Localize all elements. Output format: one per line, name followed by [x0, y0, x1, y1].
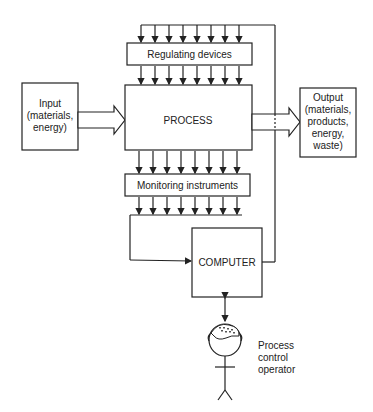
process-input-arrows	[141, 66, 239, 84]
operator-label: Process control operator	[258, 340, 296, 375]
monitoring-input-arrows	[139, 151, 237, 173]
monitoring-instruments-label: Monitoring instruments	[137, 180, 238, 191]
monitoring-instruments-box: Monitoring instruments	[125, 174, 250, 196]
output-flow-arrow	[252, 108, 300, 136]
computer-box: COMPUTER	[192, 228, 262, 297]
input-flow-arrow	[78, 106, 125, 134]
input-box: Input (materials, energy)	[22, 83, 78, 150]
operator-label-2: control	[258, 352, 288, 363]
input-label-2: (materials,	[27, 110, 74, 121]
input-label-1: Input	[39, 98, 61, 109]
regulating-input-arrows	[141, 25, 239, 42]
monitoring-output-arrows	[139, 197, 237, 214]
operator-label-1: Process	[258, 340, 294, 351]
output-label-3: products,	[307, 116, 348, 127]
output-label-5: waste)	[312, 140, 342, 151]
output-label-4: energy,	[312, 128, 345, 139]
process-box: PROCESS	[125, 85, 252, 150]
process-label: PROCESS	[164, 115, 213, 126]
regulating-devices-box: Regulating devices	[127, 43, 252, 65]
output-label-2: (materials,	[305, 104, 352, 115]
computer-label: COMPUTER	[198, 257, 255, 268]
regulating-devices-label: Regulating devices	[147, 49, 232, 60]
operator-figure-icon	[208, 324, 242, 400]
output-label-1: Output	[313, 92, 343, 103]
input-label-3: energy)	[33, 122, 67, 133]
output-box: Output (materials, products, energy, was…	[300, 88, 356, 157]
process-control-diagram: Regulating devices Input (materials, ene…	[0, 0, 373, 412]
operator-label-3: operator	[258, 364, 296, 375]
